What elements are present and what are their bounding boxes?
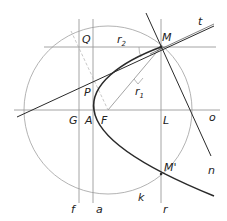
label-r: r	[163, 203, 169, 216]
parabola-diagram: Q r2 M t P r1 G A F L o M' n f a k r	[0, 0, 227, 221]
right-angle-mark	[134, 78, 143, 84]
label-m: M	[162, 31, 172, 44]
label-q: Q	[82, 33, 91, 46]
label-m-prime: M'	[164, 161, 177, 174]
radius-r1	[108, 47, 161, 110]
label-g: G	[69, 114, 78, 127]
label-k: k	[138, 191, 145, 204]
label-a-line: a	[96, 203, 103, 216]
label-r2: r2	[117, 33, 127, 48]
label-p: P	[84, 86, 91, 99]
label-f-directrix: f	[71, 203, 77, 216]
label-o: o	[209, 111, 216, 124]
normal-n	[146, 13, 211, 156]
label-f-focus: F	[101, 114, 108, 127]
parabola	[94, 47, 214, 196]
label-l: L	[163, 114, 169, 127]
point-m	[160, 46, 163, 49]
label-a-vertex: A	[84, 114, 93, 127]
point-m-prime	[160, 173, 162, 175]
diagram-svg: Q r2 M t P r1 G A F L o M' n f a k r	[0, 0, 227, 221]
label-t: t	[198, 15, 203, 28]
tangent-t-double	[150, 24, 214, 54]
label-n: n	[208, 164, 215, 177]
label-r1: r1	[135, 85, 144, 100]
